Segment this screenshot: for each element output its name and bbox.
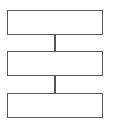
flowchart-box-1 <box>7 10 103 35</box>
connector-2-3 <box>54 75 56 94</box>
connector-1-2 <box>54 34 56 52</box>
flowchart-box-3 <box>7 93 103 118</box>
flowchart-box-2 <box>7 51 103 76</box>
